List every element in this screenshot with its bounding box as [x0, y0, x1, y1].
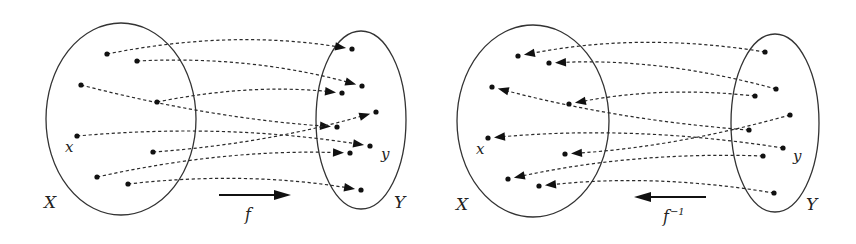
mapping-arrowhead-icon: [545, 180, 556, 188]
function-name: f: [244, 205, 254, 224]
set-x-label: X: [454, 194, 469, 214]
mapping-curve: [522, 155, 763, 176]
mapping-curve: [137, 60, 348, 82]
mapping-arrowhead-icon: [555, 58, 566, 66]
codomain-point: [760, 153, 765, 158]
arrow-right-icon: [274, 190, 291, 200]
codomain-point: [752, 93, 757, 98]
mapping-arrowhead-icon: [498, 87, 510, 95]
codomain-point: [746, 127, 751, 132]
codomain-point: [347, 150, 352, 155]
set-y-ellipse: [731, 34, 819, 212]
mapping-arrowhead-icon: [514, 171, 526, 179]
set-y-label: Y: [394, 192, 407, 212]
arrow-left-icon: [634, 192, 651, 202]
codomain-point: [787, 112, 792, 117]
mapping-arrowhead-icon: [344, 77, 356, 85]
function-f-label: f: [244, 205, 254, 224]
mapping-curve: [128, 178, 347, 187]
mapping-curve: [153, 116, 363, 152]
domain-point: [515, 53, 520, 58]
domain-point: [489, 84, 494, 89]
domain-point: [562, 151, 567, 156]
mapping-curve: [502, 133, 783, 148]
codomain-point: [773, 86, 778, 91]
codomain-point: [349, 46, 354, 51]
domain-point: [154, 99, 159, 104]
mapping-curve: [583, 92, 755, 101]
codomain-point: [780, 145, 785, 150]
mapping-arrowhead-icon: [575, 97, 587, 105]
set-y-label: Y: [806, 194, 819, 214]
codomain-point: [771, 190, 776, 195]
mapping-arrowhead-icon: [353, 139, 365, 147]
codomain-point: [373, 109, 378, 114]
mapping-curve: [81, 85, 323, 126]
mapping-arrowhead-icon: [333, 148, 344, 156]
bijection-diagram: XYxyf XYxyf−1: [0, 0, 856, 244]
point-label-y: y: [380, 145, 390, 163]
mapping-curve: [107, 40, 338, 54]
point-label-x: x: [65, 138, 74, 156]
point-label-x: x: [476, 140, 485, 158]
point-label-y: y: [792, 147, 802, 165]
mapping-arrowhead-icon: [524, 49, 536, 57]
domain-point: [104, 51, 109, 56]
mapping-curve: [553, 181, 774, 193]
domain-point: [566, 101, 571, 106]
mapping-curve: [77, 131, 356, 144]
domain-point: [150, 149, 155, 154]
domain-point: [94, 174, 99, 179]
codomain-point: [358, 187, 363, 192]
mapping-curve: [532, 42, 765, 53]
mapping-curve: [157, 89, 328, 102]
panel-function-f-inverse: XYxyf−1: [454, 25, 819, 226]
mapping-arrowhead-icon: [494, 132, 505, 140]
codomain-point: [339, 90, 344, 95]
mapping-arrowhead-icon: [335, 42, 347, 50]
mapping-curve: [97, 152, 336, 177]
panel-function-f: XYxyf: [42, 23, 407, 224]
domain-point: [536, 183, 541, 188]
codomain-point: [762, 49, 767, 54]
domain-point: [125, 181, 130, 186]
domain-point: [505, 176, 510, 181]
mapping-curve: [579, 115, 790, 153]
inverse-superscript: −1: [670, 206, 685, 217]
domain-point: [78, 82, 83, 87]
set-x-label: X: [42, 192, 57, 212]
domain-point: [74, 133, 79, 138]
mapping-arrowhead-icon: [571, 149, 582, 157]
mapping-curve: [506, 91, 749, 130]
domain-point: [485, 135, 490, 140]
mapping-arrowhead-icon: [344, 183, 356, 191]
codomain-point: [334, 124, 339, 129]
codomain-point: [359, 83, 364, 88]
function-f-inverse-label: f−1: [662, 206, 685, 226]
mapping-arrowhead-icon: [359, 113, 371, 121]
mapping-arrowhead-icon: [325, 87, 336, 95]
domain-point: [134, 58, 139, 63]
codomain-point: [367, 143, 372, 148]
domain-point: [546, 60, 551, 65]
